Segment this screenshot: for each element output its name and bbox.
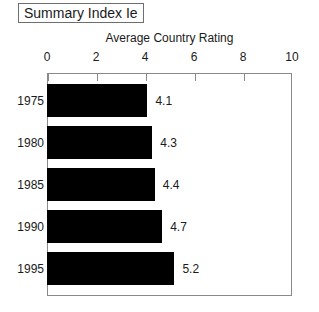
bar-value-label: 4.7 [170, 220, 187, 234]
bar-value-label: 4.3 [160, 136, 177, 150]
y-axis-category-labels: 19751980198519901995 [0, 73, 44, 296]
bar [47, 84, 147, 117]
chart-title-box: Summary Index Ie [18, 3, 144, 23]
chart-screenshot: Summary Index Ie Average Country Rating … [0, 0, 319, 312]
x-tick-label: 10 [277, 50, 307, 64]
bar [47, 210, 162, 243]
bar-row: 4.4 [47, 168, 292, 201]
x-tick-label: 0 [32, 50, 62, 64]
x-tick-label: 4 [130, 50, 160, 64]
y-category-label: 1995 [17, 252, 44, 285]
bar-row: 4.1 [47, 84, 292, 117]
x-axis-title: Average Country Rating [47, 31, 292, 45]
y-category-label: 1980 [17, 126, 44, 159]
x-axis-tick-labels: 0246810 [0, 50, 319, 66]
x-tick-label: 6 [179, 50, 209, 64]
bar-value-label: 5.2 [182, 262, 199, 276]
x-tick-label: 8 [228, 50, 258, 64]
bar [47, 252, 174, 285]
bar-row: 5.2 [47, 252, 292, 285]
bar [47, 126, 152, 159]
x-tick-label: 2 [81, 50, 111, 64]
bar [47, 168, 155, 201]
y-category-label: 1985 [17, 168, 44, 201]
bar-value-label: 4.1 [155, 94, 172, 108]
y-category-label: 1975 [17, 84, 44, 117]
bar-row: 4.3 [47, 126, 292, 159]
y-category-label: 1990 [17, 210, 44, 243]
page-title: Summary Index Ie [24, 6, 138, 20]
bar-value-label: 4.4 [163, 178, 180, 192]
bars-layer: 4.14.34.44.75.2 [47, 73, 292, 296]
bar-row: 4.7 [47, 210, 292, 243]
